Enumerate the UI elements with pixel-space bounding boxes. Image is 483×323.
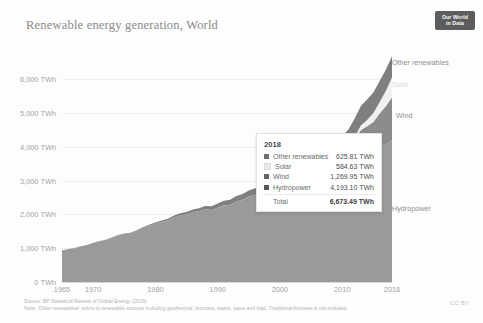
y-axis-tick-label: 2,000 TWh [20, 210, 56, 219]
tooltip: 2018 Other renewables625.81 TWhSolar584.… [256, 133, 382, 212]
x-axis-tick-label: 1970 [85, 285, 101, 294]
tooltip-row: Solar584.63 TWh [264, 163, 374, 170]
tooltip-color-swatch [264, 154, 269, 159]
y-axis-tick-label: 0 TWh [34, 278, 56, 287]
page-title: Renewable energy generation, World [26, 18, 218, 33]
tooltip-rows: Other renewables625.81 TWhSolar584.63 TW… [264, 153, 374, 191]
tooltip-series-label: Hydropower [273, 184, 330, 191]
tooltip-series-label: Wind [273, 173, 330, 180]
tooltip-total-row: Total 6,673.49 TWh [264, 194, 374, 206]
license-label[interactable]: CC BY [450, 300, 469, 306]
y-axis-tick-label: 5,000 TWh [20, 108, 56, 117]
y-axis-tick-label: 3,000 TWh [20, 176, 56, 185]
series-label-hydropower: Hydropower [392, 204, 431, 213]
tooltip-row: Wind1,269.95 TWh [264, 173, 374, 180]
footer: Source: BP Statistical Review of Global … [24, 298, 414, 313]
x-axis-tick-label: 1965 [54, 285, 70, 294]
tooltip-series-label: Other renewables [273, 153, 336, 160]
tooltip-row: Hydropower4,193.10 TWh [264, 184, 374, 191]
tooltip-color-swatch [264, 185, 269, 190]
tooltip-series-label: Solar [275, 163, 336, 170]
tooltip-series-value: 1,269.95 TWh [330, 173, 374, 180]
tooltip-series-value: 584.63 TWh [336, 163, 374, 170]
x-axis-tick-label: 1980 [147, 285, 163, 294]
y-axis-tick-label: 4,000 TWh [20, 142, 56, 151]
y-axis-tick-label: 1,000 TWh [20, 244, 56, 253]
tooltip-total-label: Total [264, 198, 330, 205]
tooltip-year: 2018 [264, 140, 374, 149]
tooltip-series-value: 4,193.10 TWh [330, 184, 374, 191]
series-label-other-renewables: Other renewables [392, 58, 449, 67]
x-axis-tick-label: 2000 [272, 285, 288, 294]
tooltip-total-value: 6,673.49 TWh [330, 198, 374, 205]
x-axis-tick-label: 2018 [384, 285, 400, 294]
y-axis-tick-label: 6,000 TWh [20, 75, 56, 84]
series-label-wind: Wind [396, 111, 412, 120]
footer-note: Note: 'Other renewables' refers to renew… [24, 305, 414, 313]
footer-source: Source: BP Statistical Review of Global … [24, 298, 414, 306]
gridline [62, 282, 392, 283]
tooltip-color-swatch [264, 163, 271, 170]
tooltip-color-swatch [264, 174, 269, 179]
series-label-solar: Solar [392, 80, 409, 89]
x-axis-tick-label: 2010 [334, 285, 350, 294]
chart-card: Renewable energy generation, World Our W… [0, 0, 483, 323]
owid-badge-line2: in Data [446, 21, 464, 26]
tooltip-row: Other renewables625.81 TWh [264, 153, 374, 160]
owid-logo-badge[interactable]: Our World in Data [435, 11, 475, 30]
tooltip-series-value: 625.81 TWh [336, 153, 374, 160]
x-axis-tick-label: 1990 [209, 285, 225, 294]
